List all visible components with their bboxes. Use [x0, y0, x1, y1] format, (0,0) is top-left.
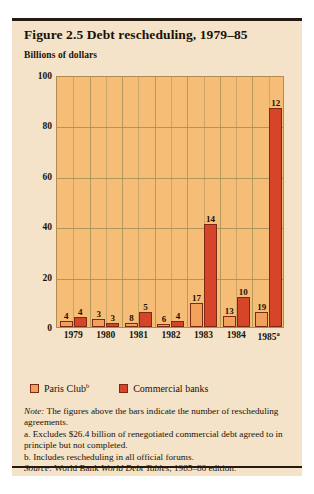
bar-value-label: 14 — [206, 214, 215, 224]
legend-superscript: b — [86, 382, 89, 389]
bar-commercial-banks[interactable]: 12 — [269, 108, 282, 327]
x-axis-tick: 1981 — [129, 330, 148, 340]
x-axis-tick: 1979 — [64, 330, 83, 340]
bar-value-label: 12 — [271, 98, 280, 108]
footnote-a: a. Excludes $26.4 billion of renegotiate… — [24, 429, 292, 452]
bar-group: 1714 — [187, 77, 220, 327]
x-axis-tick: 1985a — [258, 330, 280, 342]
bar-group: 64 — [155, 77, 188, 327]
y-axis-tick: 20 — [28, 273, 52, 283]
figure-title: Figure 2.5 Debt rescheduling, 1979–85 — [24, 27, 248, 43]
y-axis-tick: 80 — [28, 121, 52, 131]
bar-group: 33 — [90, 77, 123, 327]
bar-commercial-banks[interactable]: 5 — [139, 312, 152, 327]
footnote-b: b. Includes rescheduling in all official… — [24, 452, 292, 463]
note-lead: Note: — [24, 406, 44, 416]
y-axis-unit-label: Billions of dollars — [24, 50, 97, 60]
bar-commercial-banks[interactable]: 10 — [237, 297, 250, 327]
bar-value-label: 4 — [176, 311, 181, 321]
y-axis-tick: 60 — [28, 172, 52, 182]
legend-label-paris-club: Paris Clubb — [44, 382, 89, 394]
source-lead: Source: — [24, 463, 52, 473]
bottom-rule — [12, 466, 302, 468]
bar-value-label: 4 — [64, 311, 69, 321]
bar-group: 44 — [57, 77, 90, 327]
bar-group: 85 — [122, 77, 155, 327]
x-axis-tick: 1980 — [96, 330, 115, 340]
bar-commercial-banks[interactable]: 4 — [171, 321, 184, 327]
bar-group: 1912 — [252, 77, 285, 327]
x-axis-tick: 1982 — [162, 330, 181, 340]
top-rule — [12, 18, 302, 21]
bar-value-label: 13 — [225, 306, 234, 316]
bar-commercial-banks[interactable]: 3 — [106, 323, 119, 327]
legend-item-commercial-banks[interactable]: Commercial banks — [119, 383, 208, 394]
legend-swatch-paris-club — [30, 384, 39, 393]
bar-commercial-banks[interactable]: 14 — [204, 224, 217, 327]
source-text-1: World Bank — [52, 463, 101, 473]
source-line: Source: World Bank World Debt Tables, 19… — [24, 463, 292, 474]
bar-commercial-banks[interactable]: 4 — [74, 317, 87, 327]
note-text: The figures above the bars indicate the … — [24, 406, 278, 427]
note-line: Note: The figures above the bars indicat… — [24, 406, 292, 429]
y-axis-tick: 0 — [28, 323, 52, 333]
bar-value-label: 4 — [78, 307, 83, 317]
bar-value-label: 3 — [111, 313, 116, 323]
bar-paris-club[interactable]: 3 — [92, 319, 105, 327]
x-axis-tick: 1984 — [227, 330, 246, 340]
source-title: World Debt Tables — [101, 463, 169, 473]
bar-value-label: 5 — [143, 302, 148, 312]
chart-legend: Paris ClubbCommercial banks — [30, 382, 208, 394]
bar-value-label: 19 — [257, 302, 266, 312]
source-text-2: , 1985–86 edition. — [169, 463, 236, 473]
x-axis-tick: 1983 — [194, 330, 213, 340]
bar-paris-club[interactable]: 17 — [190, 303, 203, 327]
bar-paris-club[interactable]: 6 — [157, 324, 170, 327]
bar-paris-club[interactable]: 4 — [60, 321, 73, 327]
bar-paris-club[interactable]: 13 — [223, 316, 236, 327]
legend-label-commercial-banks: Commercial banks — [133, 383, 208, 394]
plot-area: 44338564171413101912 1979198019811982198… — [56, 76, 284, 328]
legend-item-paris-club[interactable]: Paris Clubb — [30, 382, 89, 394]
y-axis-tick: 100 — [28, 71, 52, 81]
bar-value-label: 3 — [97, 309, 102, 319]
bar-paris-club[interactable]: 19 — [255, 312, 268, 327]
bar-value-label: 6 — [162, 314, 167, 324]
x-tick-superscript: a — [277, 330, 280, 337]
y-axis-tick: 40 — [28, 222, 52, 232]
figure-card: Figure 2.5 Debt rescheduling, 1979–85 Bi… — [12, 18, 302, 476]
bar-group: 1310 — [220, 77, 253, 327]
chart-plot-wrapper: 020406080100 44338564171413101912 197919… — [24, 64, 290, 354]
legend-swatch-commercial-banks — [119, 384, 128, 393]
bar-value-label: 17 — [192, 293, 201, 303]
figure-notes: Note: The figures above the bars indicat… — [24, 406, 292, 474]
bar-value-label: 8 — [129, 313, 134, 323]
bar-value-label: 10 — [239, 287, 248, 297]
bar-paris-club[interactable]: 8 — [125, 323, 138, 327]
